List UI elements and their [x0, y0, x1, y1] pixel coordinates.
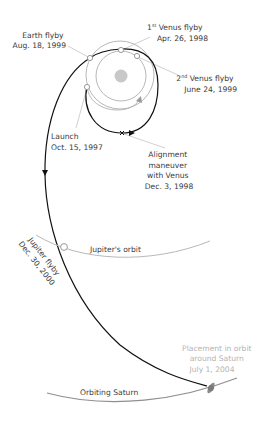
direction-arrow-icon-2	[42, 170, 48, 176]
leader-alignment	[124, 134, 165, 148]
jupiter-flyby-marker	[61, 244, 68, 251]
earth-flyby-marker	[87, 55, 92, 60]
venus-flyby-2-marker	[134, 53, 139, 58]
label-launch: Launch Oct. 15, 1997	[51, 132, 103, 152]
launch-marker	[84, 84, 89, 89]
leader-earth-flyby	[68, 46, 90, 58]
label-venus-flyby-1: 1st Venus flyby Apr. 26, 1998	[147, 23, 208, 43]
label-saturn-arrival: Placement in orbit around Saturn July 1,…	[182, 344, 254, 374]
transfer-arrow-icon	[136, 96, 142, 103]
sun	[115, 70, 128, 83]
label-alignment-maneuver: Alignment maneuver with Venus Dec. 3, 19…	[145, 150, 194, 191]
label-saturn-orbit: Orbiting Saturn	[80, 388, 138, 397]
label-jupiter-orbit: Jupiter's orbit	[89, 245, 141, 254]
label-jupiter-flyby: Jupiter flyby Dec. 30, 2000	[17, 233, 65, 287]
trajectory-outbound	[45, 58, 207, 386]
spacecraft-trajectory	[45, 49, 207, 386]
label-earth-flyby: Earth flyby Aug. 18, 1999	[13, 31, 67, 50]
trajectory-diagram: Earth flyby Aug. 18, 1999 1st Venus flyb…	[0, 0, 273, 424]
label-venus-flyby-2: 2nd Venus flyby June 24, 1999	[176, 74, 237, 94]
venus-flyby-1-marker	[118, 47, 123, 52]
leader-venus-flyby-1	[122, 37, 150, 50]
